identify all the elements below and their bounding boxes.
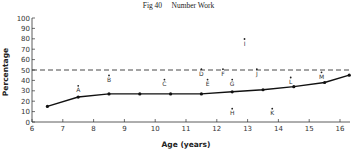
x-tick-label: 14 (274, 125, 283, 133)
data-point (348, 74, 351, 77)
y-tick-label: 30 (21, 87, 30, 95)
x-tick-label: 15 (305, 125, 314, 133)
annotation-label: F (221, 70, 225, 77)
data-point (231, 90, 234, 93)
data-point (46, 105, 49, 108)
x-tick-label: 12 (212, 125, 221, 133)
annotation-label: K (270, 109, 275, 116)
y-tick-label: 90 (21, 25, 30, 33)
series-line (47, 75, 349, 106)
x-tick-label: 16 (336, 125, 345, 133)
y-tick-label: 40 (21, 77, 30, 85)
data-point (261, 88, 264, 91)
annotation-label: J (255, 70, 258, 78)
x-tick-label: 8 (91, 125, 95, 133)
y-tick-label: 60 (21, 56, 30, 64)
x-tick-label: 7 (61, 125, 65, 133)
annotation-label: M (319, 73, 324, 80)
data-point (77, 95, 80, 98)
y-tick-label: 20 (21, 98, 30, 106)
annotation-label: L (289, 78, 293, 85)
x-tick-label: 10 (151, 125, 160, 133)
x-tick-label: 13 (243, 125, 252, 133)
annotation-label: G (230, 80, 235, 87)
data-point (107, 92, 110, 95)
annotations: ABCDEFGHIJKLM (76, 38, 324, 116)
annotation-label: B (107, 76, 111, 83)
x-axis-label: Age (years) (162, 140, 211, 149)
x-tick-label: 6 (30, 125, 35, 133)
annotation-label: H (230, 109, 235, 116)
axes: 0102030405060708090100678910111213141516 (17, 15, 350, 134)
annotation-label: C (162, 80, 166, 87)
annotation-label: D (199, 70, 204, 77)
y-tick-label: 80 (21, 35, 30, 43)
data-point (292, 85, 295, 88)
data-series (46, 74, 351, 108)
line-chart: 0102030405060708090100678910111213141516… (0, 0, 357, 154)
annotation-label: E (206, 80, 210, 87)
data-point (138, 92, 141, 95)
x-tick-label: 11 (182, 125, 191, 133)
y-axis-label: Percentage (1, 48, 10, 96)
y-tick-label: 70 (21, 46, 30, 54)
y-tick-label: 10 (21, 108, 30, 116)
data-point (169, 92, 172, 95)
y-tick-label: 50 (21, 67, 30, 75)
y-tick-label: 100 (17, 15, 30, 23)
annotation-label: I (244, 40, 246, 47)
x-tick-label: 9 (122, 125, 126, 133)
data-point (323, 81, 326, 84)
data-point (200, 92, 203, 95)
annotation-label: A (76, 86, 81, 93)
